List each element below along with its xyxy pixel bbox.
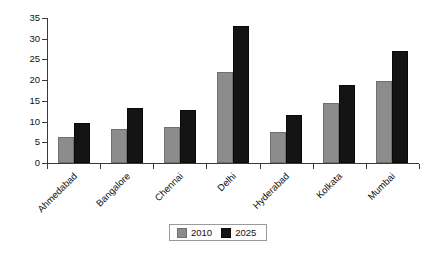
bar-delhi-2010 xyxy=(217,72,233,163)
x-tick-6 xyxy=(366,164,367,169)
y-tick-label-wrap-15: 15 xyxy=(0,96,40,106)
y-tick-label-5: 5 xyxy=(0,137,40,147)
legend-swatch-2010 xyxy=(177,228,187,238)
bar-chennai-2025 xyxy=(180,110,196,163)
bar-group xyxy=(58,18,90,163)
x-tick-1 xyxy=(100,164,101,169)
y-tick-label-wrap-0: 0 xyxy=(0,158,40,168)
y-tick-label-0: 0 xyxy=(0,158,40,168)
bar-bangalore-2010 xyxy=(111,129,127,163)
bar-group xyxy=(376,18,408,163)
bar-group xyxy=(164,18,196,163)
x-tick-2 xyxy=(153,164,154,169)
y-tick-label-15: 15 xyxy=(0,96,40,106)
bar-group xyxy=(270,18,302,163)
bar-delhi-2025 xyxy=(233,26,249,163)
x-tick-0 xyxy=(47,164,48,169)
bar-bangalore-2025 xyxy=(127,108,143,163)
legend-item-2010: 2010 xyxy=(177,228,215,238)
x-tick-3 xyxy=(206,164,207,169)
y-tick-label-wrap-5: 5 xyxy=(0,137,40,147)
bar-ahmedabad-2010 xyxy=(58,137,74,163)
legend-swatch-2025 xyxy=(221,228,231,238)
bar-mumbai-2025 xyxy=(392,51,408,163)
y-tick-label-wrap-20: 20 xyxy=(0,75,40,85)
chart-legend: 2010 2025 xyxy=(169,224,267,241)
bar-group xyxy=(323,18,355,163)
bar-hyderabad-2010 xyxy=(270,132,286,163)
y-tick-label-20: 20 xyxy=(0,75,40,85)
legend-label-2010: 2010 xyxy=(191,228,215,238)
plot-area xyxy=(47,18,419,163)
y-tick-label-25: 25 xyxy=(0,54,40,64)
bar-chart: 05101520253035 AhmedabadBangaloreChennai… xyxy=(0,0,431,255)
bar-ahmedabad-2025 xyxy=(74,123,90,163)
y-tick-label-wrap-25: 25 xyxy=(0,54,40,64)
x-tick-4 xyxy=(260,164,261,169)
bar-mumbai-2010 xyxy=(376,81,392,163)
y-tick-label-35: 35 xyxy=(0,13,40,23)
bar-kolkata-2010 xyxy=(323,103,339,163)
y-tick-label-30: 30 xyxy=(0,34,40,44)
y-tick-label-wrap-35: 35 xyxy=(0,13,40,23)
bar-group xyxy=(217,18,249,163)
bar-kolkata-2025 xyxy=(339,85,355,163)
bar-chennai-2010 xyxy=(164,127,180,163)
legend-item-2025: 2025 xyxy=(221,228,259,238)
y-tick-label-wrap-10: 10 xyxy=(0,117,40,127)
y-tick-label-10: 10 xyxy=(0,117,40,127)
bar-hyderabad-2025 xyxy=(286,115,302,163)
x-tick-5 xyxy=(313,164,314,169)
y-tick-label-wrap-30: 30 xyxy=(0,34,40,44)
x-tick-7 xyxy=(419,164,420,169)
legend-label-2025: 2025 xyxy=(235,228,259,238)
x-axis-line xyxy=(47,163,419,164)
bar-group xyxy=(111,18,143,163)
